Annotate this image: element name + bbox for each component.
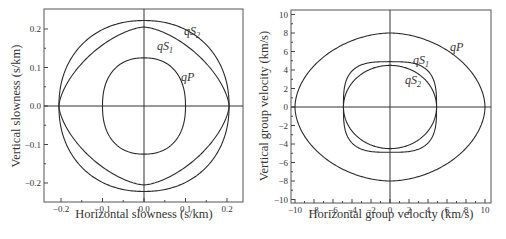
y-tick-label: −10 <box>274 195 289 205</box>
left-label-qS1: qS1 <box>157 39 173 55</box>
left-y-axis-label: Vertical slowness (s/km) <box>9 45 23 168</box>
y-tick-label: 4 <box>284 65 289 75</box>
right-label-qP: qP <box>450 40 464 54</box>
y-tick-label: 8 <box>284 28 289 38</box>
x-tick-label: −0.2 <box>53 204 69 214</box>
right-label-qS1: qS1 <box>413 53 429 69</box>
left-ticks: −0.2−0.10.00.10.2−0.2−0.10.00.10.2 <box>25 24 233 214</box>
y-tick-label: −0.1 <box>25 140 41 150</box>
left-chart-slowness: −0.2−0.10.00.10.2−0.2−0.10.00.10.2 qS2 q… <box>9 9 243 221</box>
y-tick-label: 0.0 <box>30 101 42 111</box>
figure-canvas: −0.2−0.10.00.10.2−0.2−0.10.00.10.2 qS2 q… <box>0 0 506 239</box>
left-label-qS2: qS2 <box>184 24 200 40</box>
y-tick-label: −6 <box>278 158 288 168</box>
x-tick-label: 10 <box>481 205 491 215</box>
y-tick-label: 0.2 <box>30 24 41 34</box>
right-chart-group-velocity: −10−8−6−4−20246810−10−8−6−4−20246810 qP … <box>257 10 491 222</box>
x-tick-label: −10 <box>288 205 303 215</box>
y-tick-label: −0.2 <box>25 178 41 188</box>
y-tick-label: 2 <box>284 84 289 94</box>
y-tick-label: −4 <box>278 139 288 149</box>
right-y-axis-label: Vertical group velocity (km/s) <box>257 31 271 181</box>
y-tick-label: 10 <box>279 10 289 20</box>
right-label-qS2: qS2 <box>405 73 421 89</box>
y-tick-label: 6 <box>284 47 289 57</box>
right-x-axis-label: Horizontal group velocity (km/s) <box>309 207 474 221</box>
y-tick-label: −8 <box>278 176 288 186</box>
left-x-axis-label: Horizontal slowness (s/km) <box>75 207 212 221</box>
x-tick-label: 0.2 <box>221 204 232 214</box>
left-label-qP: qP <box>181 70 195 84</box>
y-tick-label: −2 <box>278 121 288 131</box>
y-tick-label: 0 <box>284 102 289 112</box>
y-tick-label: 0.1 <box>30 63 41 73</box>
